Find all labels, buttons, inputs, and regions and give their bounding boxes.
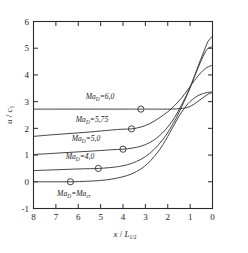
x-tick-label: 7 bbox=[54, 212, 59, 222]
series-label-2: MaD=5,0 bbox=[71, 134, 101, 144]
series-label-1: MaD=5,75 bbox=[75, 115, 109, 125]
y-tick-label: 1 bbox=[25, 150, 30, 160]
x-tick-label: 2 bbox=[166, 212, 171, 222]
y-tick-label: 2 bbox=[25, 124, 30, 134]
y-tick-label: -1 bbox=[22, 204, 30, 214]
x-tick-label: 0 bbox=[210, 212, 215, 222]
y-tick-label: 4 bbox=[25, 70, 30, 80]
x-tick-label: 4 bbox=[121, 212, 126, 222]
series-label-0: MaD=6,0 bbox=[85, 92, 115, 102]
chart-canvas: 876543210 -10123456 MaD=6,0MaD=5,75MaD=5… bbox=[0, 0, 248, 253]
y-tick-label: 6 bbox=[25, 17, 30, 27]
series-label-3: MaD=4,0 bbox=[65, 152, 95, 162]
x-tick-label: 1 bbox=[188, 212, 193, 222]
x-tick-label: 3 bbox=[143, 212, 148, 222]
y-tick-label: 0 bbox=[25, 177, 30, 187]
x-tick-label: 8 bbox=[31, 212, 36, 222]
y-tick-label: 3 bbox=[25, 97, 30, 107]
x-tick-label: 6 bbox=[76, 212, 81, 222]
x-tick-label: 5 bbox=[98, 212, 103, 222]
chart-figure: 876543210 -10123456 MaD=6,0MaD=5,75MaD=5… bbox=[0, 0, 248, 253]
y-tick-label: 5 bbox=[25, 43, 30, 53]
